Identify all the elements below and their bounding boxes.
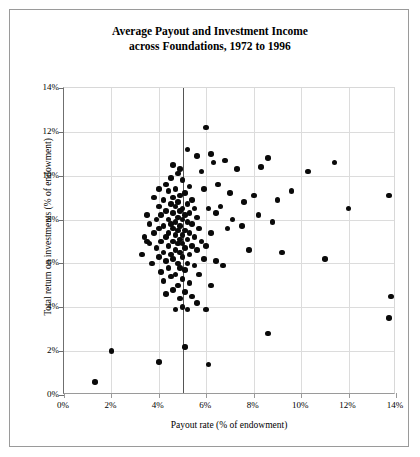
scatter-point <box>194 300 200 306</box>
scatter-point <box>206 206 212 212</box>
scatter-point <box>211 160 217 166</box>
x-axis-tick-label: 10% <box>280 400 320 410</box>
scatter-point <box>192 234 198 240</box>
scatter-point <box>158 212 164 218</box>
scatter-point <box>163 234 169 240</box>
y-axis-tick <box>59 132 64 133</box>
x-axis-tick <box>349 393 350 398</box>
scatter-point <box>218 204 224 210</box>
plot-area <box>63 87 395 394</box>
scatter-point <box>187 252 193 258</box>
scatter-point <box>192 206 198 212</box>
scatter-point <box>92 379 98 385</box>
x-axis-tick-label: 4% <box>138 400 178 410</box>
scatter-point <box>185 307 191 313</box>
x-axis-tick <box>254 393 255 398</box>
x-axis-tick-label: 8% <box>233 400 273 410</box>
scatter-point <box>332 160 338 166</box>
scatter-point <box>182 245 188 251</box>
y-axis-tick <box>59 88 64 89</box>
x-axis-tick <box>206 393 207 398</box>
scatter-point <box>182 267 188 273</box>
x-axis-tick <box>111 393 112 398</box>
y-axis-tick <box>59 351 64 352</box>
y-axis-tick <box>59 307 64 308</box>
scatter-point <box>227 190 233 196</box>
chart-title-line-2: across Foundations, 1972 to 1996 <box>30 39 390 54</box>
scatter-point <box>151 195 157 201</box>
x-axis-tick-label: 14% <box>375 400 415 410</box>
scatter-point <box>185 237 191 243</box>
scatter-point <box>175 283 181 289</box>
scatter-point <box>239 223 245 229</box>
scatter-point <box>139 252 145 258</box>
scatter-point <box>213 210 219 216</box>
scatter-point <box>222 158 228 164</box>
scatter-point <box>189 197 195 203</box>
scatter-point <box>246 247 252 253</box>
scatter-point <box>156 359 162 365</box>
gridline-vertical <box>206 88 207 393</box>
gridline-horizontal <box>64 263 394 264</box>
scatter-point <box>194 247 200 253</box>
scatter-point <box>173 186 179 192</box>
scatter-point <box>156 226 162 232</box>
x-axis-tick-label: 12% <box>328 400 368 410</box>
scatter-point <box>151 230 157 236</box>
x-axis-tick <box>159 393 160 398</box>
y-axis-title: Total return on investments (% of endowm… <box>43 107 53 347</box>
scatter-point <box>206 362 212 368</box>
x-axis-tick <box>64 393 65 398</box>
scatter-point <box>180 177 186 183</box>
scatter-point <box>147 241 153 247</box>
scatter-point <box>163 208 169 214</box>
gridline-vertical <box>349 88 350 393</box>
y-axis-tick-label: 0% <box>15 389 59 399</box>
scatter-point <box>187 280 193 286</box>
scatter-point <box>386 315 392 321</box>
scatter-point <box>225 226 231 232</box>
scatter-point <box>322 256 328 262</box>
scatter-point <box>149 261 155 267</box>
gridline-vertical <box>254 88 255 393</box>
scatter-point <box>182 344 188 350</box>
scatter-point <box>201 256 207 262</box>
scatter-point <box>234 166 240 172</box>
scatter-point <box>220 263 226 269</box>
scatter-point <box>192 263 198 269</box>
scatter-point <box>208 151 214 157</box>
gridline-horizontal <box>64 176 394 177</box>
scatter-point <box>203 307 209 313</box>
gridline-vertical <box>111 88 112 393</box>
x-axis-tick-label: 6% <box>185 400 225 410</box>
scatter-point <box>154 245 160 251</box>
scatter-point <box>215 182 221 188</box>
scatter-point <box>386 193 392 199</box>
chart-title: Average Payout and Investment Income acr… <box>30 24 390 54</box>
scatter-point <box>158 269 164 275</box>
scatter-point <box>265 331 271 337</box>
scatter-point <box>203 125 209 131</box>
scatter-point <box>156 254 162 260</box>
scatter-point <box>208 283 214 289</box>
scatter-point <box>279 250 285 256</box>
scatter-point <box>182 289 188 295</box>
scatter-point <box>196 272 202 278</box>
scatter-point <box>305 169 311 175</box>
gridline-horizontal <box>64 220 394 221</box>
x-axis-tick <box>301 393 302 398</box>
scatter-point <box>147 221 153 227</box>
scatter-point <box>388 294 394 300</box>
x-axis-tick-labels: 0%2%4%6%8%10%12%14% <box>63 400 395 416</box>
scatter-point <box>289 188 295 194</box>
scatter-point <box>265 155 271 161</box>
scatter-point <box>170 162 176 168</box>
gridline-vertical <box>301 88 302 393</box>
scatter-point <box>175 171 181 177</box>
scatter-point <box>194 215 200 221</box>
x-axis-tick-label: 0% <box>43 400 83 410</box>
scatter-point <box>346 206 352 212</box>
x-axis-tick <box>396 393 397 398</box>
chart-title-line-1: Average Payout and Investment Income <box>112 25 308 37</box>
scatter-point <box>180 276 186 282</box>
